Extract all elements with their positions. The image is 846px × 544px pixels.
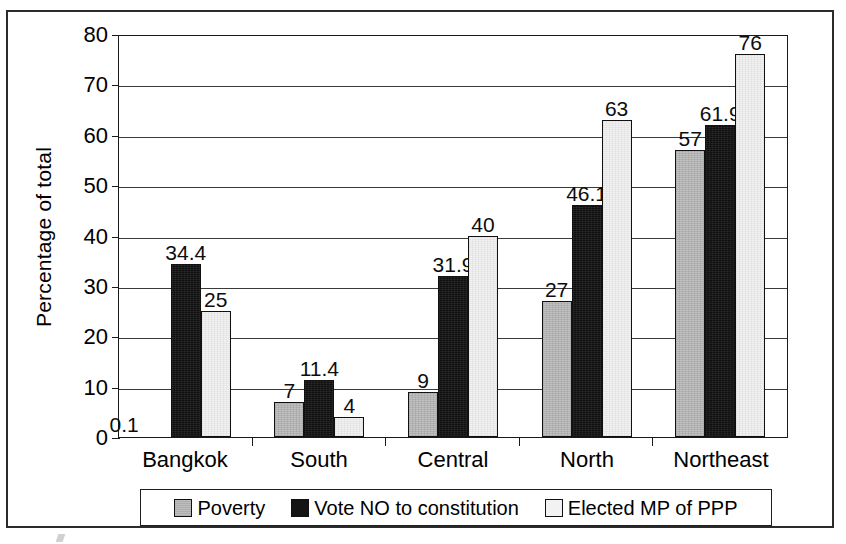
bar-slot: 34.4 xyxy=(171,36,201,437)
legend-item-1[interactable]: Vote NO to constitution xyxy=(291,498,519,518)
bar-slot: 9 xyxy=(408,36,438,437)
bar-value-label: 7 xyxy=(284,380,296,401)
bar-value-label: 0.1 xyxy=(110,414,139,435)
legend-label: Vote NO to constitution xyxy=(314,498,519,518)
bar[interactable]: 11.4 xyxy=(304,380,334,437)
legend-label: Poverty xyxy=(197,498,265,518)
bar-group-bangkok: 0.134.425 xyxy=(119,36,253,437)
y-axis-tick-mark xyxy=(112,438,120,439)
figure: Percentage of total 01020304050607080 0.… xyxy=(0,0,846,544)
y-axis-tick-label: 10 xyxy=(60,377,108,399)
legend-swatch-icon xyxy=(545,499,563,517)
bar[interactable]: 46.1 xyxy=(572,205,602,437)
bar-slot: 25 xyxy=(201,36,231,437)
bar[interactable]: 7 xyxy=(274,402,304,437)
y-axis-tick-label: 40 xyxy=(60,226,108,248)
x-axis-tick-mark xyxy=(519,437,520,446)
bar-slot: 31.9 xyxy=(438,36,468,437)
bars: 2746.163 xyxy=(520,36,654,437)
bar[interactable]: 27 xyxy=(542,301,572,437)
scan-artifact xyxy=(56,534,66,542)
bar-value-label: 57 xyxy=(678,128,701,149)
bar-group-north: 2746.163 xyxy=(520,36,654,437)
x-axis-label-central: Central xyxy=(386,448,520,472)
x-axis-label-northeast: Northeast xyxy=(654,448,788,472)
bar[interactable]: 9 xyxy=(408,392,438,437)
bar-slot: 27 xyxy=(542,36,572,437)
legend-label: Elected MP of PPP xyxy=(568,498,738,518)
bar[interactable]: 57 xyxy=(675,150,705,437)
x-axis-label-south: South xyxy=(252,448,386,472)
bar[interactable]: 63 xyxy=(602,120,632,437)
bar-value-label: 76 xyxy=(738,32,761,53)
y-axis-tick-label: 30 xyxy=(60,276,108,298)
y-axis-tick-label: 60 xyxy=(60,125,108,147)
bar-group-northeast: 5761.976 xyxy=(653,36,787,437)
legend-item-2[interactable]: Elected MP of PPP xyxy=(545,498,738,518)
bar-value-label: 63 xyxy=(605,98,628,119)
x-axis-tick-mark xyxy=(385,437,386,446)
chart-legend: PovertyVote NO to constitutionElected MP… xyxy=(140,489,772,526)
x-axis-labels: BangkokSouthCentralNorthNortheast xyxy=(118,448,788,472)
bar-slot: 61.9 xyxy=(705,36,735,437)
bar[interactable]: 31.9 xyxy=(438,276,468,437)
bar-groups: 0.134.425711.44931.9402746.1635761.976 xyxy=(119,36,787,437)
bar-slot: 76 xyxy=(735,36,765,437)
y-axis-title: Percentage of total xyxy=(32,146,56,326)
bar-slot: 40 xyxy=(468,36,498,437)
plot-frame: 0.134.425711.44931.9402746.1635761.976 xyxy=(118,35,788,438)
bars: 5761.976 xyxy=(653,36,787,437)
bar-group-south: 711.44 xyxy=(253,36,387,437)
y-axis-tick-label: 80 xyxy=(60,24,108,46)
y-axis-tick-label: 70 xyxy=(60,74,108,96)
bar-value-label: 40 xyxy=(471,214,494,235)
bar-slot: 63 xyxy=(602,36,632,437)
bar[interactable]: 4 xyxy=(334,417,364,437)
bar[interactable]: 76 xyxy=(735,54,765,437)
legend-item-0[interactable]: Poverty xyxy=(174,498,265,518)
bar-value-label: 9 xyxy=(417,370,429,391)
bars: 711.44 xyxy=(253,36,387,437)
bar-value-label: 11.4 xyxy=(300,358,339,379)
bars: 0.134.425 xyxy=(119,36,253,437)
x-axis-tick-mark xyxy=(652,437,653,446)
bar-slot: 57 xyxy=(675,36,705,437)
bar-slot: 11.4 xyxy=(304,36,334,437)
legend-swatch-icon xyxy=(174,499,192,517)
bar[interactable]: 40 xyxy=(468,236,498,438)
bar-value-label: 27 xyxy=(545,279,568,300)
bar[interactable]: 25 xyxy=(201,311,231,437)
x-axis-label-north: North xyxy=(520,448,654,472)
x-axis-label-bangkok: Bangkok xyxy=(118,448,252,472)
bar-value-label: 4 xyxy=(344,395,356,416)
y-axis-tick-label: 50 xyxy=(60,175,108,197)
x-axis-tick-mark xyxy=(252,437,253,446)
legend-swatch-icon xyxy=(291,499,309,517)
bar[interactable]: 34.4 xyxy=(171,264,201,437)
y-axis-tick-label: 20 xyxy=(60,326,108,348)
bars: 931.940 xyxy=(386,36,520,437)
bar[interactable]: 61.9 xyxy=(705,125,735,437)
bar-slot: 4 xyxy=(334,36,364,437)
bar-slot: 46.1 xyxy=(572,36,602,437)
bar-slot: 0.1 xyxy=(141,36,171,437)
bar-value-label: 25 xyxy=(204,289,227,310)
bar-group-central: 931.940 xyxy=(386,36,520,437)
y-axis-tick-label: 0 xyxy=(60,427,108,449)
chart-plot-area: 0.134.425711.44931.9402746.1635761.976 xyxy=(118,35,788,438)
